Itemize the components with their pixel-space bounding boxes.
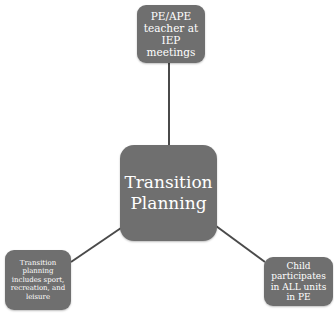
node-pe-ape-teacher: PE/APE teacher at IEP meetings [137,5,205,63]
connector-center-right [216,226,265,262]
node-sport-recreation-leisure: Transition planning includes sport, recr… [5,250,71,310]
node-label: Child participates in ALL units in PE [266,261,331,303]
node-label: Transition planning includes sport, recr… [8,259,68,302]
node-label: PE/APE teacher at IEP meetings [140,10,202,58]
connector-center-left [71,228,121,262]
node-transition-planning: Transition Planning [120,145,217,241]
node-child-participates: Child participates in ALL units in PE [264,257,333,306]
center-label: Transition Planning [124,172,213,214]
